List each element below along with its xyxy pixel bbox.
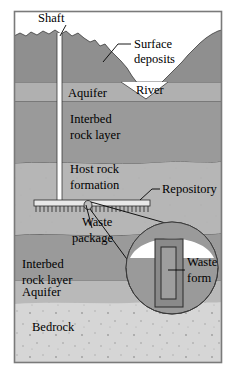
label-shaft: Shaft [38, 11, 65, 25]
label-host-rock-1: Host rock [70, 162, 120, 176]
label-interbed-upper-2: rock layer [70, 128, 121, 142]
label-river: River [136, 83, 165, 97]
cross-section-svg: Shaft Surface deposits Aquifer River Int… [0, 0, 236, 374]
label-aquifer-upper: Aquifer [68, 86, 108, 100]
waste-package-marker [84, 201, 92, 210]
label-waste-package-2: package [72, 231, 113, 245]
waste-form-body [161, 247, 176, 299]
label-waste-package-1: Waste [82, 215, 113, 229]
shaft-column [57, 33, 62, 206]
label-surface-deposits-2: deposits [134, 52, 175, 66]
label-waste-form-2: form [187, 271, 212, 285]
label-surface-deposits-1: Surface [134, 37, 173, 51]
layer-aquifer-upper [14, 82, 222, 101]
label-aquifer-lower: Aquifer [22, 285, 62, 299]
label-repository: Repository [162, 182, 218, 196]
label-waste-form-1: Waste [187, 255, 218, 269]
label-interbed-lower-1: Interbed [22, 257, 64, 271]
label-interbed-upper-1: Interbed [70, 112, 112, 126]
label-bedrock: Bedrock [32, 320, 75, 334]
label-host-rock-2: formation [70, 178, 120, 192]
geologic-repository-diagram: Shaft Surface deposits Aquifer River Int… [0, 0, 236, 374]
